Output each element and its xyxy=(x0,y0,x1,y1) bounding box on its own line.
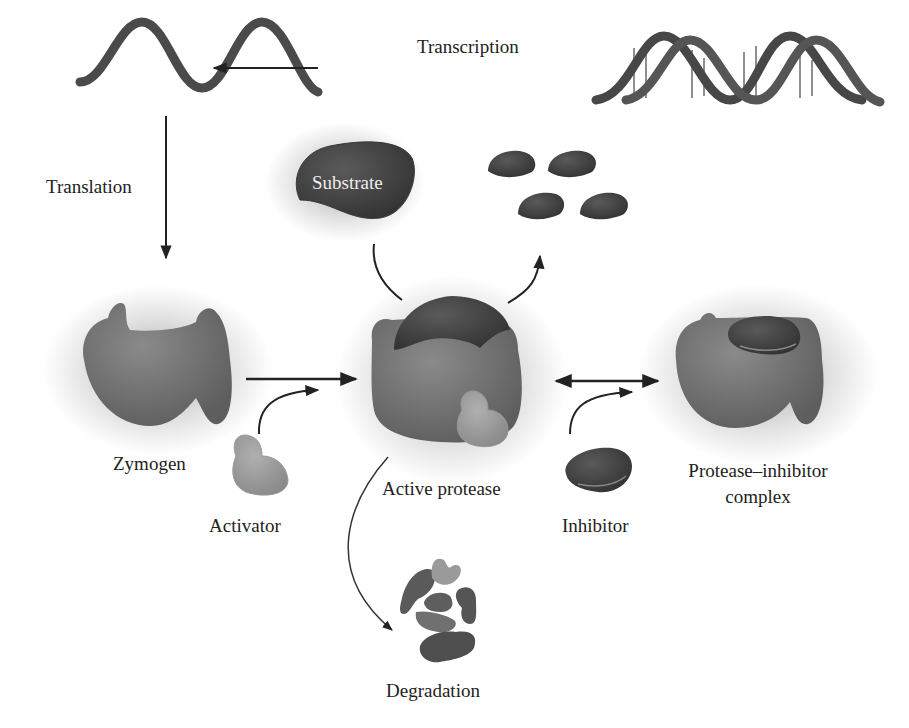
translation-label: Translation xyxy=(46,176,132,198)
activator-label: Activator xyxy=(209,515,281,537)
active-protease-shape xyxy=(337,275,567,485)
complex-label-line2: complex xyxy=(725,486,790,508)
substrate-fragments xyxy=(488,151,628,219)
inhibitor-binding-arrow xyxy=(570,392,632,434)
activator-binding-arrow xyxy=(259,390,318,434)
transcription-label: Transcription xyxy=(417,36,519,58)
substrate-label: Substrate xyxy=(312,172,383,194)
inhibitor-shape xyxy=(565,448,632,493)
protease-regulation-diagram xyxy=(0,0,909,728)
protease-inhibitor-complex-shape xyxy=(638,284,878,464)
active-protease-label: Active protease xyxy=(382,478,501,500)
degradation-fragments xyxy=(400,559,476,663)
complex-label-line1: Protease–inhibitor xyxy=(688,460,827,482)
degradation-label: Degradation xyxy=(386,680,480,702)
mrna-icon xyxy=(80,22,318,92)
inhibitor-label: Inhibitor xyxy=(562,515,629,537)
zymogen-shape xyxy=(43,285,273,455)
activator-shape xyxy=(233,435,288,495)
dna-helix-icon xyxy=(596,36,880,102)
zymogen-label: Zymogen xyxy=(113,453,186,475)
